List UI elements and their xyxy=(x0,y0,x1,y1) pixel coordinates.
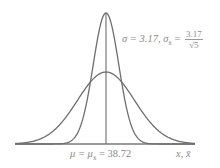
sigma-annotation: σ = 3.17, σx̄ = 3.17√5 xyxy=(122,29,203,50)
fraction-denominator: √5 xyxy=(185,40,203,50)
sigma-fraction: 3.17√5 xyxy=(185,29,203,50)
fraction-numerator: 3.17 xyxy=(185,29,203,40)
mu-value: = 38.72 xyxy=(96,148,131,159)
sigma-prefix: σ = 3.17, σ xyxy=(122,33,168,44)
mean-label: μ = μx̄ = 38.72 xyxy=(70,148,131,162)
x-axis-label: x, x̄ xyxy=(176,148,191,159)
normal-curves-chart xyxy=(0,0,220,168)
sigma-equals: = xyxy=(172,33,183,44)
mu-text: μ = μ xyxy=(70,148,93,159)
population-distribution-curve xyxy=(15,72,195,144)
